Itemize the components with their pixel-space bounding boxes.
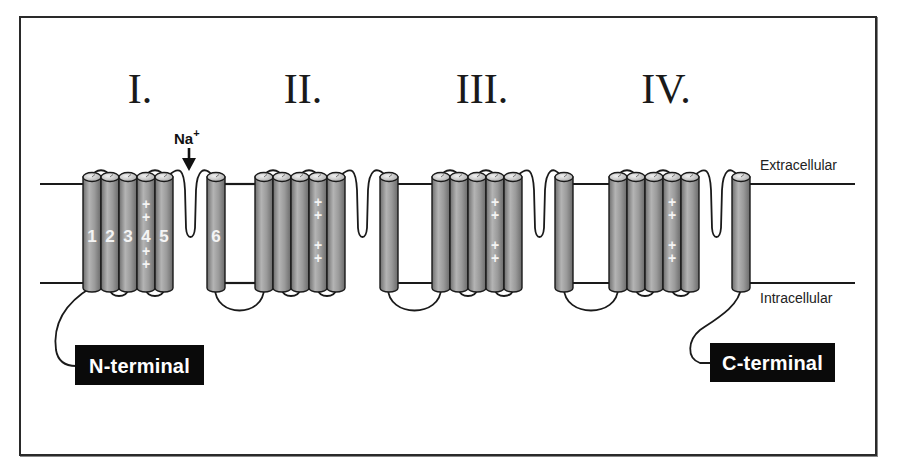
positive-charge-icon: + — [314, 250, 322, 266]
domain-numeral-3: III. — [456, 66, 508, 112]
sodium-ion-marker: Na+ — [174, 127, 200, 171]
helix-d2-s4: ++++ — [309, 173, 327, 293]
positive-charge-icon: + — [491, 207, 499, 223]
helix-d3-s4: ++++ — [486, 173, 504, 293]
domain-numeral-1: I. — [128, 66, 153, 112]
positive-charge-icon: + — [491, 250, 499, 266]
transmembrane-helices: 1234++++56++++++++++++ — [83, 173, 750, 293]
segment-number: 1 — [87, 227, 96, 246]
domain-numeral-2: II. — [284, 66, 322, 112]
helix-d2-s1 — [255, 173, 273, 293]
segment-number: 5 — [159, 227, 168, 246]
helix-d1-s4: 4++++ — [137, 173, 155, 293]
ion-label: Na+ — [174, 127, 200, 147]
helix-d3-s3 — [468, 173, 486, 293]
helix-d3-s5 — [504, 173, 522, 293]
segment-number: 2 — [105, 227, 114, 246]
helix-d4-s2 — [627, 173, 645, 293]
helix-d2-s5 — [327, 173, 345, 293]
helix-d4-s4: ++++ — [663, 173, 681, 293]
pore-loop-1 — [168, 170, 213, 237]
positive-charge-icon: + — [668, 207, 676, 223]
helix-d1-s1: 1 — [83, 173, 101, 293]
helix-d1-s3: 3 — [119, 173, 137, 293]
positive-charge-icon: + — [142, 209, 150, 225]
helix-d4-s1 — [609, 173, 627, 293]
segment-number: 3 — [123, 227, 132, 246]
down-arrow-icon — [182, 148, 196, 171]
helix-d1-s2: 2 — [101, 173, 119, 293]
helix-d3-s6 — [555, 173, 573, 293]
helix-d1-s6: 6 — [207, 173, 225, 293]
c-terminal-label: C-terminal — [722, 352, 823, 374]
sodium-channel-diagram: I. II. III. IV. — [0, 0, 897, 474]
c-terminal-badge: C-terminal — [710, 343, 835, 382]
pore-loop-2 — [340, 170, 386, 237]
helix-d1-s5: 5 — [155, 173, 173, 293]
helix-d4-s6 — [732, 173, 750, 293]
extracellular-label: Extracellular — [760, 157, 837, 173]
helix-d2-s2 — [273, 173, 291, 292]
positive-charge-icon: + — [668, 250, 676, 266]
segment-number: 6 — [211, 227, 220, 246]
helix-d2-s3 — [291, 173, 309, 293]
n-terminal-badge: N-terminal — [75, 345, 204, 385]
domain-numerals: I. II. III. IV. — [128, 66, 691, 112]
helix-d2-s6 — [380, 173, 398, 293]
n-terminal-label: N-terminal — [89, 355, 190, 377]
helix-d3-s2 — [450, 173, 468, 293]
helix-d4-s5 — [681, 173, 699, 293]
positive-charge-icon: + — [314, 207, 322, 223]
domain-numeral-4: IV. — [641, 66, 690, 112]
intracellular-label: Intracellular — [760, 290, 833, 306]
helix-d4-s3 — [645, 173, 663, 293]
helix-d3-s1 — [432, 173, 450, 293]
positive-charge-icon: + — [142, 256, 150, 272]
